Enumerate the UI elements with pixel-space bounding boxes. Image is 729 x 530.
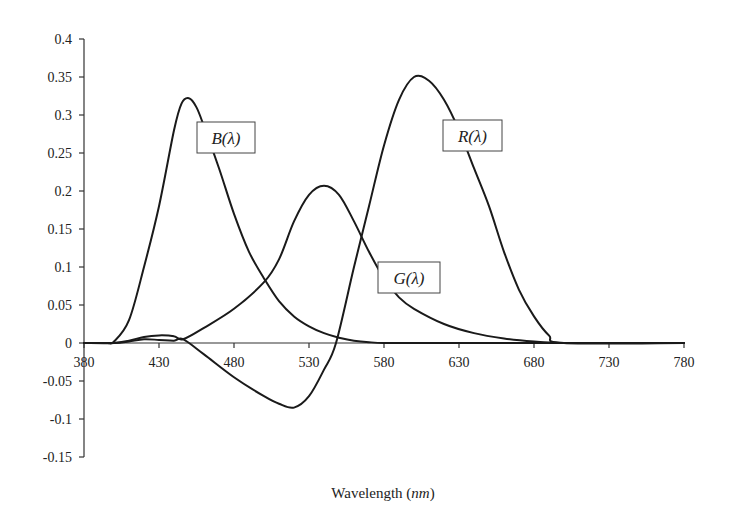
y-tick-label: 0 [65, 336, 72, 351]
y-tick-label: 0.4 [55, 32, 73, 47]
x-axis-title: Wavelength (nm) [331, 485, 434, 502]
curve-label-b: B(λ) [197, 122, 255, 153]
y-tick-label: 0.05 [48, 298, 73, 313]
chart: 0.40.350.30.250.20.150.10.050-0.05-0.1-0… [0, 0, 729, 530]
y-tick-label: 0.35 [48, 70, 73, 85]
y-tick-label: -0.1 [50, 412, 72, 427]
label-text: B(λ) [211, 129, 240, 148]
x-axis: 380430480530580630680730780 [74, 343, 695, 370]
curve-b [84, 98, 684, 344]
y-tick-label: 0.15 [48, 222, 73, 237]
x-tick-label: 630 [449, 355, 470, 370]
curve-labels: B(λ)R(λ)G(λ) [197, 120, 502, 293]
curve-label-g: G(λ) [378, 262, 440, 293]
label-text: R(λ) [457, 127, 487, 146]
y-tick-label: -0.05 [43, 374, 72, 389]
x-tick-label: 380 [74, 355, 95, 370]
y-tick-label: 0.25 [48, 146, 73, 161]
x-tick-label: 480 [224, 355, 245, 370]
label-text: G(λ) [394, 269, 425, 288]
curve-label-r: R(λ) [443, 120, 502, 151]
x-tick-label: 430 [149, 355, 170, 370]
x-tick-label: 530 [299, 355, 320, 370]
x-tick-label: 680 [524, 355, 545, 370]
y-tick-label: -0.15 [43, 450, 72, 465]
y-tick-label: 0.3 [55, 108, 73, 123]
x-tick-label: 580 [374, 355, 395, 370]
y-axis: 0.40.350.30.250.20.150.10.050-0.05-0.1-0… [43, 32, 84, 465]
x-tick-label: 730 [599, 355, 620, 370]
y-tick-label: 0.1 [55, 260, 73, 275]
x-tick-label: 780 [674, 355, 695, 370]
y-tick-label: 0.2 [55, 184, 73, 199]
